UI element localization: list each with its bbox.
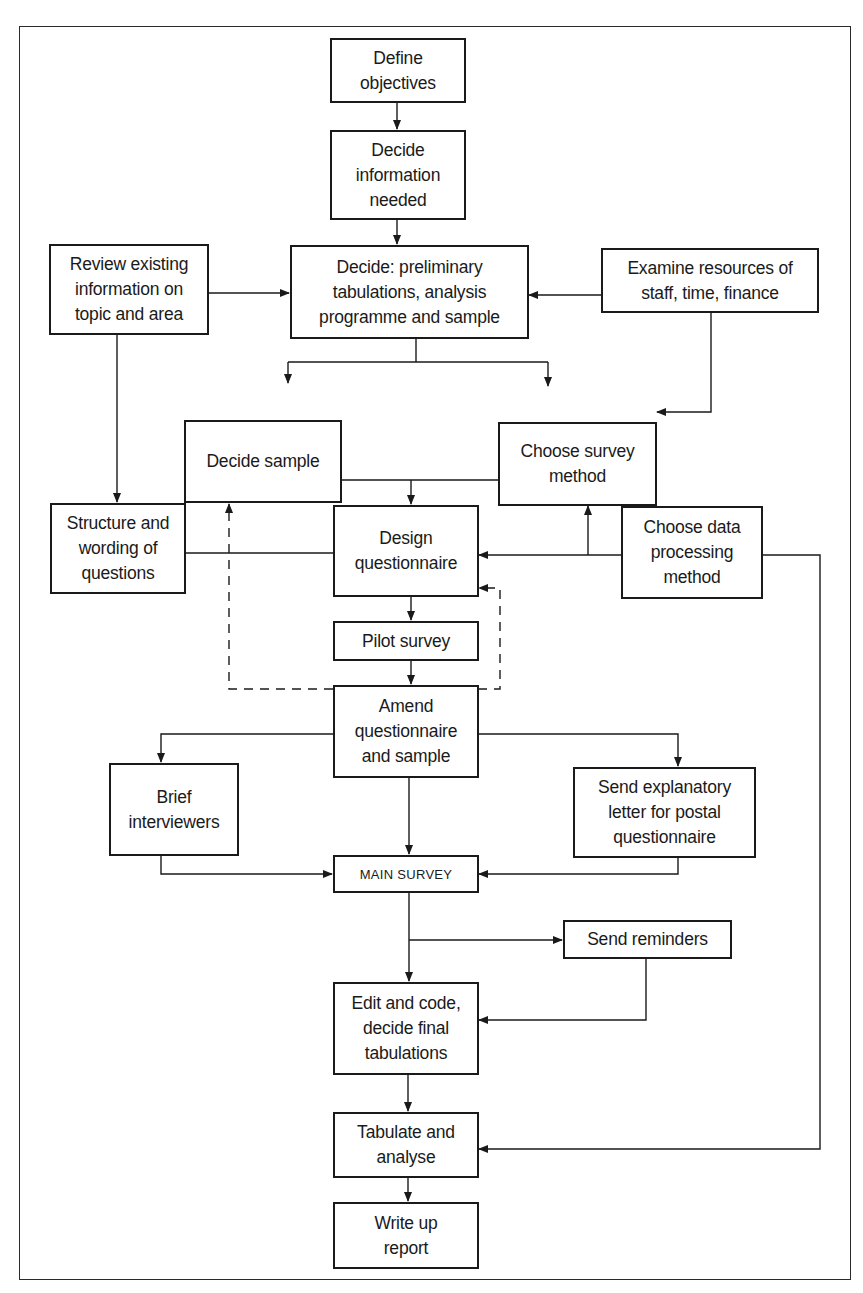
node-label: Pilot survey [362,629,450,654]
node-label: Structure and wording of questions [67,511,169,586]
node-label: Decide sample [206,449,319,474]
node-label: Examine resources of staff, time, financ… [627,256,792,306]
node-label: Decide information needed [356,138,440,213]
node-tabulate-analyse: Tabulate and analyse [333,1112,479,1178]
node-define-objectives: Define objectives [330,38,466,103]
node-choose-data-processing: Choose data processing method [621,506,763,599]
node-decide-sample: Decide sample [184,420,342,503]
node-write-up-report: Write up report [333,1202,479,1269]
node-label: Review existing information on topic and… [70,252,189,327]
node-label: Brief interviewers [129,785,220,835]
node-choose-survey-method: Choose survey method [498,422,657,506]
node-label: Send reminders [587,927,708,952]
node-decide-preliminary: Decide: preliminary tabulations, analysi… [290,245,529,339]
node-label: Amend questionnaire and sample [355,694,457,769]
node-label: Write up report [374,1211,437,1261]
node-structure-wording: Structure and wording of questions [50,503,186,594]
node-send-reminders: Send reminders [563,920,732,959]
node-label: Send explanatory letter for postal quest… [598,775,731,850]
node-review-existing: Review existing information on topic and… [49,244,209,335]
node-label: Define objectives [360,46,436,96]
node-label: Decide: preliminary tabulations, analysi… [319,255,500,330]
node-label: Choose data processing method [643,515,740,590]
node-amend-questionnaire: Amend questionnaire and sample [333,685,479,778]
node-edit-and-code: Edit and code, decide final tabulations [333,982,479,1075]
node-label: MAIN SURVEY [360,862,453,887]
node-main-survey: MAIN SURVEY [333,855,479,893]
node-label: Tabulate and analyse [357,1120,455,1170]
node-design-questionnaire: Design questionnaire [333,505,479,597]
node-label: Design questionnaire [355,526,457,576]
node-send-explanatory-letter: Send explanatory letter for postal quest… [573,767,756,858]
node-decide-information: Decide information needed [330,130,466,220]
node-pilot-survey: Pilot survey [333,621,479,661]
node-brief-interviewers: Brief interviewers [109,763,239,856]
node-examine-resources: Examine resources of staff, time, financ… [601,248,819,313]
node-label: Edit and code, decide final tabulations [351,991,460,1066]
node-label: Choose survey method [520,439,634,489]
